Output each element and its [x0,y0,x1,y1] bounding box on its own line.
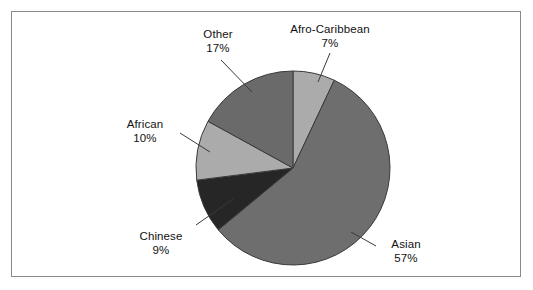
pie-label-afro-caribbean: Afro-Caribbean 7% [278,23,382,50]
pie-label-chinese: Chinese 9% [128,230,194,257]
pie-chart-figure: Afro-Caribbean 7% Other 17% African 10% … [0,0,533,290]
pie-label-other-value: 17% [186,42,250,56]
pie-label-african-name: African [112,118,178,132]
pie-label-asian-name: Asian [378,238,434,252]
pie-label-chinese-value: 9% [128,244,194,258]
leader-line-other [221,60,252,92]
pie-label-chinese-name: Chinese [128,230,194,244]
pie-chart-canvas [0,0,533,290]
pie-label-other-name: Other [186,28,250,42]
pie-label-asian: Asian 57% [378,238,434,265]
pie-label-afro-caribbean-name: Afro-Caribbean [278,23,382,37]
pie-label-african-value: 10% [112,132,178,146]
pie-slice-group [196,71,390,265]
pie-label-other: Other 17% [186,28,250,55]
pie-label-asian-value: 57% [378,252,434,266]
pie-label-african: African 10% [112,118,178,145]
pie-label-afro-caribbean-value: 7% [278,37,382,51]
